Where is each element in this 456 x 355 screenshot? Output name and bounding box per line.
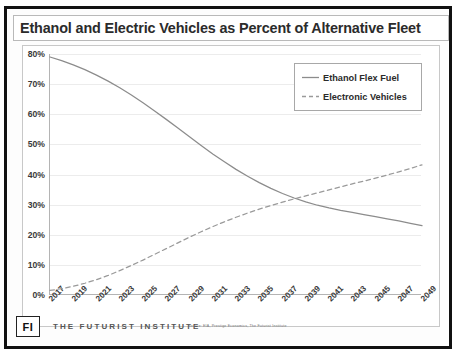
slide-canvas: Ethanol and Electric Vehicles as Percent… [0, 0, 456, 355]
y-axis-tick-label: 80% [28, 49, 45, 59]
slide-title-bar: Ethanol and Electric Vehicles as Percent… [13, 15, 449, 41]
legend-swatch-solid [302, 73, 319, 82]
y-axis-tick-label: 30% [28, 200, 45, 210]
y-axis-tick-label: 40% [28, 170, 45, 180]
legend-label-electronic-vehicles: Electronic Vehicles [323, 92, 407, 102]
legend-item-ethanol-flex-fuel: Ethanol Flex Fuel [302, 73, 421, 83]
series-line-electronic-vehicles [50, 165, 422, 291]
chart-container: 0%10%20%30%40%50%60%70%80% 2017201920212… [22, 45, 440, 327]
chart-legend: Ethanol Flex Fuel Electronic Vehicles [294, 63, 422, 111]
logo-text: FI [23, 321, 34, 333]
legend-label-ethanol-flex-fuel: Ethanol Flex Fuel [323, 73, 399, 83]
page-title: Ethanol and Electric Vehicles as Percent… [14, 20, 421, 36]
legend-swatch-dashed [302, 92, 319, 101]
y-axis-tick-label: 60% [28, 109, 45, 119]
y-axis-tick-label: 20% [28, 230, 45, 240]
futurist-institute-logo: FI [16, 316, 40, 337]
y-axis-tick-label: 70% [28, 79, 45, 89]
y-axis-tick-label: 10% [28, 260, 45, 270]
slide-footer: FI THE FUTURIST INSTITUTE Source: EIA, P… [13, 314, 449, 340]
y-axis-tick-label: 0% [33, 290, 45, 300]
slide-frame: Ethanol and Electric Vehicles as Percent… [4, 6, 452, 349]
organization-name: THE FUTURIST INSTITUTE [53, 322, 201, 331]
legend-item-electronic-vehicles: Electronic Vehicles [302, 92, 421, 102]
source-note: Source: EIA, Prestige Economics, The Fut… [188, 324, 287, 328]
y-axis-tick-label: 50% [28, 139, 45, 149]
slide-inner: Ethanol and Electric Vehicles as Percent… [7, 9, 449, 346]
